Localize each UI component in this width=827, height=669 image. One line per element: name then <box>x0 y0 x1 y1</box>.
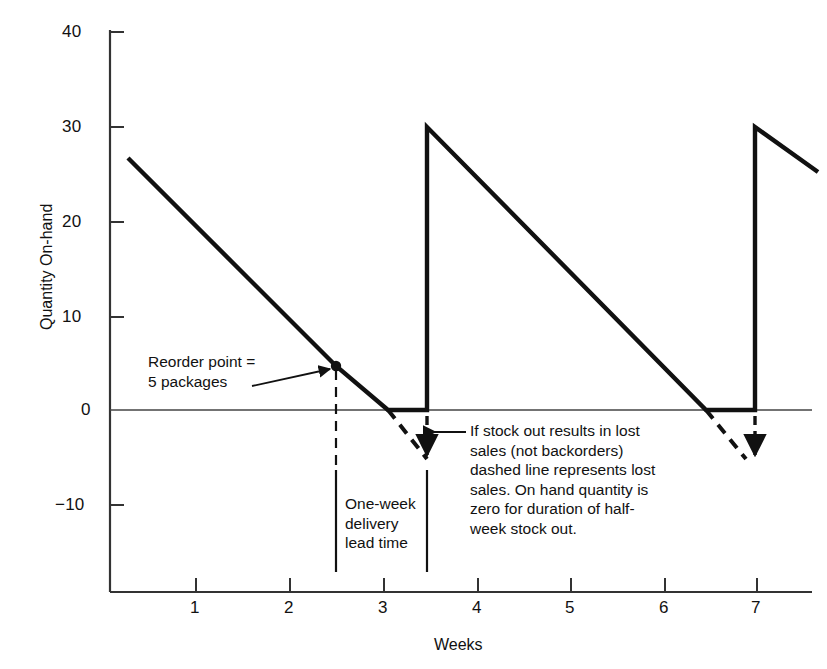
y-tick-40: 40 <box>62 22 81 42</box>
lost-sales-note: If stock out results in lost sales (not … <box>470 421 655 538</box>
reorder-point-leader <box>252 369 330 386</box>
x-tick-1: 1 <box>190 598 200 618</box>
y-tick-30: 30 <box>62 117 81 137</box>
reorder-point-marker <box>331 361 341 371</box>
x-tick-6: 6 <box>659 598 669 618</box>
lost-sales-note-line-2: sales (not backorders) <box>470 441 655 461</box>
x-tick-5: 5 <box>565 598 575 618</box>
x-axis <box>110 578 812 592</box>
lead-time-note-line-1: One-week <box>345 494 416 514</box>
lead-time-note-line-2: delivery <box>345 514 416 534</box>
y-axis-title: Quantity On-hand <box>38 204 56 330</box>
x-tick-4: 4 <box>472 598 482 618</box>
y-tick-0: 0 <box>81 400 91 420</box>
x-tick-3: 3 <box>378 598 388 618</box>
lost-sales-note-line-3: dashed line represents lost <box>470 460 655 480</box>
y-tick-10: 10 <box>62 307 81 327</box>
lost-sales-note-line-6: week stock out. <box>470 519 655 539</box>
reorder-point-note: Reorder point = 5 packages <box>148 352 255 391</box>
x-tick-7: 7 <box>751 598 761 618</box>
y-tick-20: 20 <box>62 212 81 232</box>
lost-sales-dashed-1 <box>388 410 427 459</box>
lead-time-note: One-week delivery lead time <box>345 494 416 553</box>
x-tick-2: 2 <box>284 598 294 618</box>
chart-figure: 40 30 20 10 0 −10 1 2 3 4 5 6 7 Quantity… <box>0 0 827 669</box>
x-axis-title: Weeks <box>434 636 483 654</box>
reorder-point-note-line-2: 5 packages <box>148 372 255 392</box>
y-tick-neg10: −10 <box>55 495 84 515</box>
chart-canvas <box>0 0 827 669</box>
lead-time-note-line-3: lead time <box>345 533 416 553</box>
lost-sales-note-line-5: zero for duration of half- <box>470 499 655 519</box>
y-axis <box>110 30 124 592</box>
lost-sales-note-line-1: If stock out results in lost <box>470 421 655 441</box>
reorder-point-note-line-1: Reorder point = <box>148 352 255 372</box>
lost-sales-note-line-4: sales. On hand quantity is <box>470 480 655 500</box>
lost-sales-dashed-2 <box>706 410 746 459</box>
